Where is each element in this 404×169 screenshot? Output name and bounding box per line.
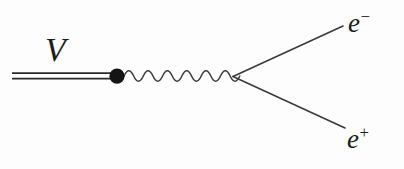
electron-label: e− [348,10,370,37]
positron-fermion-line [233,77,345,129]
electron-fermion-line [233,26,343,77]
electron-label-base: e [348,8,360,38]
interaction-vertex-dot [109,69,124,84]
electron-label-charge: − [360,7,370,26]
positron-label: e+ [347,126,369,153]
photon-wavy-propagator [124,71,240,82]
positron-label-base: e [347,124,359,154]
feynman-diagram-figure: V e− e+ [0,0,404,169]
positron-label-charge: + [359,123,369,142]
boson-double-line [12,73,117,78]
diagram-canvas [0,0,404,169]
boson-label: V [45,33,66,67]
